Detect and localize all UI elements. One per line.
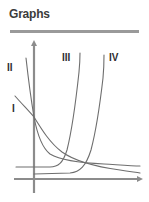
curve-label-iii: III (62, 52, 70, 63)
curve-II (26, 58, 140, 166)
curve-label-ii: II (7, 62, 13, 73)
curve-label-i: I (12, 103, 15, 114)
graphs-figure: Graphs I II III IV (0, 0, 149, 202)
axes (14, 45, 138, 193)
curve-label-iv: IV (109, 52, 118, 63)
plot-area (0, 0, 149, 202)
curve-III (16, 53, 80, 167)
